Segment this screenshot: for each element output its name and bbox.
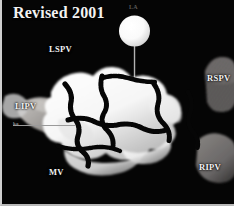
rspv-vein-shape bbox=[205, 57, 234, 112]
ripv-vein-shape bbox=[196, 133, 234, 183]
figure-panel: Revised 2001 LSPV RSPV LIPV RIPV MV LA k… bbox=[0, 0, 234, 206]
balloon-catheter bbox=[119, 16, 150, 47]
leader-line bbox=[13, 125, 76, 126]
anatomical-rendering bbox=[2, 0, 234, 206]
